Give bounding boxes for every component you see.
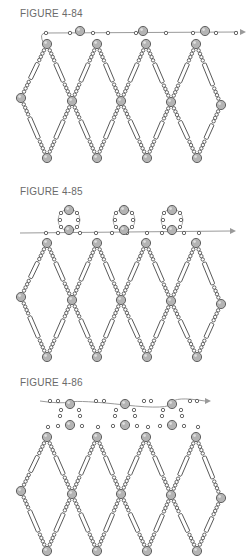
figure-4-84: FIGURE 4-84 bbox=[0, 0, 249, 183]
netting-diagram bbox=[0, 375, 249, 558]
figure-4-86: FIGURE 4-86 bbox=[0, 375, 249, 558]
netting-diagram bbox=[0, 183, 249, 375]
netting-diagram bbox=[0, 0, 249, 183]
figure-4-85: FIGURE 4-85 bbox=[0, 183, 249, 375]
